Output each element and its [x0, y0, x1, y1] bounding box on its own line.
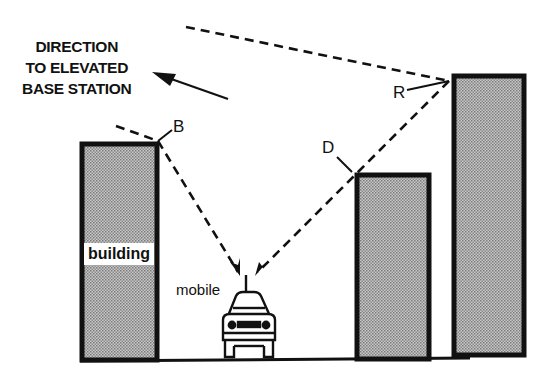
direction-label: DIRECTION TO ELEVATED BASE STATION: [22, 36, 132, 99]
point-label-R: R: [393, 84, 405, 102]
arrowhead-R-icon: [255, 261, 268, 276]
path-B-to-mobile: [158, 141, 238, 272]
building-middle: [357, 175, 429, 359]
path-incoming-to-B: [116, 126, 158, 141]
building-right: [454, 76, 524, 355]
direction-label-line-1: DIRECTION: [22, 36, 132, 57]
building-label: building: [84, 243, 154, 265]
direction-label-line-3: BASE STATION: [22, 78, 132, 99]
path-incoming-to-R: [186, 27, 449, 81]
leader-B: [158, 130, 172, 141]
car-icon: [223, 275, 275, 357]
point-label-D: D: [322, 139, 334, 157]
direction-arrowhead-icon: [152, 72, 176, 86]
leader-D: [337, 157, 352, 172]
mobile-label: mobile: [176, 281, 220, 299]
point-label-B: B: [173, 118, 184, 136]
direction-label-line-2: TO ELEVATED: [22, 57, 132, 78]
